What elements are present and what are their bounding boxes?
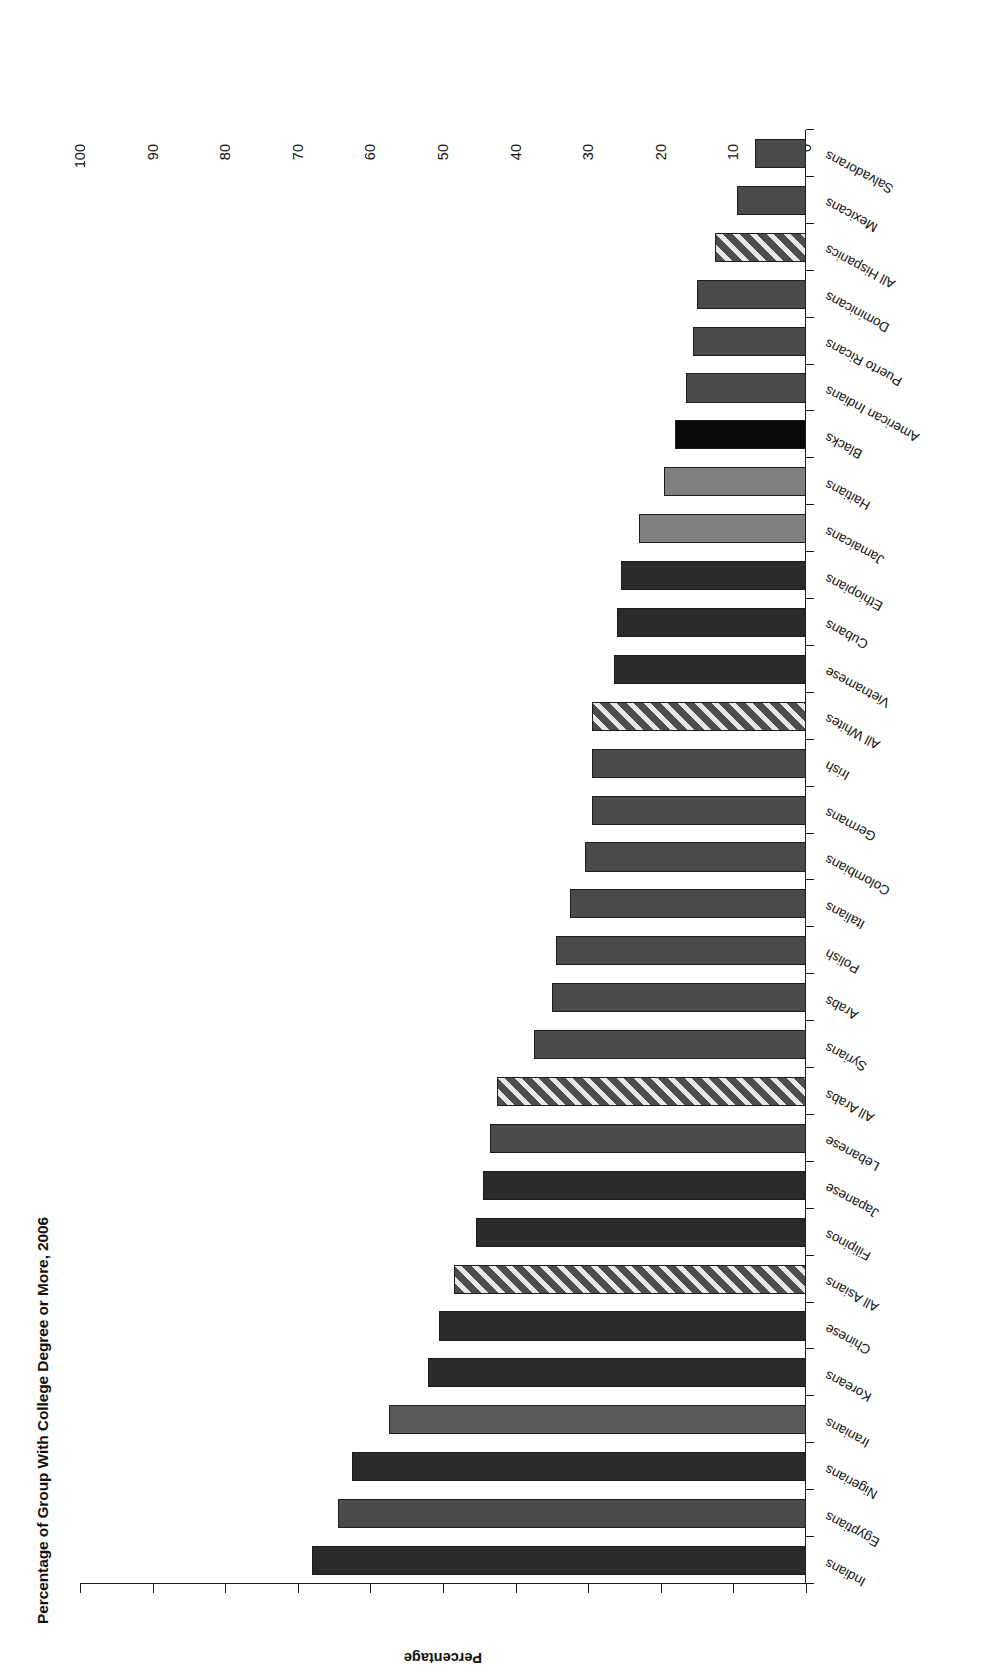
bar-item[interactable] xyxy=(80,936,806,965)
y-tick xyxy=(806,1584,807,1593)
bar-item[interactable] xyxy=(80,373,806,402)
bar xyxy=(686,373,806,402)
bar xyxy=(675,420,806,449)
x-tick-label: Haitians xyxy=(822,477,872,513)
y-tick xyxy=(225,1584,226,1593)
x-tick-label: Polish xyxy=(822,946,862,977)
x-tick xyxy=(806,1583,814,1584)
chart-title: Percentage of Group With College Degree … xyxy=(34,1217,52,1624)
bar-item[interactable] xyxy=(80,420,806,449)
bar-item[interactable] xyxy=(80,327,806,356)
bar-item[interactable] xyxy=(80,889,806,918)
y-tick xyxy=(443,1584,444,1593)
bar xyxy=(490,1124,806,1153)
bar-item[interactable] xyxy=(80,796,806,825)
bar-item[interactable] xyxy=(80,1030,806,1059)
bar-item[interactable] xyxy=(80,1077,806,1106)
y-tick xyxy=(153,1584,154,1593)
bar xyxy=(476,1218,806,1247)
bar xyxy=(592,749,806,778)
bar xyxy=(312,1546,806,1575)
x-tick-label: Puerto Ricans xyxy=(822,336,904,389)
bar xyxy=(534,1030,806,1059)
x-tick-label: Koreans xyxy=(822,1368,873,1405)
x-tick-label: Salvadorans xyxy=(822,148,895,196)
y-tick xyxy=(661,1584,662,1593)
x-tick-label: Ethiopians xyxy=(822,571,885,614)
bar xyxy=(715,233,806,262)
chart-canvas: Percentage of Group With College Degree … xyxy=(0,0,996,1676)
x-tick-label: Japanese xyxy=(822,1180,881,1221)
bar-item[interactable] xyxy=(80,1452,806,1481)
x-tick-label: Egyptians xyxy=(822,1509,881,1550)
bar xyxy=(428,1358,806,1387)
y-tick xyxy=(370,1584,371,1593)
bar-item[interactable] xyxy=(80,1124,806,1153)
bar-item[interactable] xyxy=(80,1218,806,1247)
bar-item[interactable] xyxy=(80,1405,806,1434)
bar-item[interactable] xyxy=(80,1546,806,1575)
bar-item[interactable] xyxy=(80,280,806,309)
y-tick xyxy=(588,1584,589,1593)
bar xyxy=(697,280,806,309)
x-tick-label: All Whites xyxy=(822,711,882,752)
bar-item[interactable] xyxy=(80,561,806,590)
bar xyxy=(483,1171,806,1200)
x-tick-label: Filipinos xyxy=(822,1227,873,1263)
x-tick-label: Cubans xyxy=(822,617,870,652)
bar-item[interactable] xyxy=(80,467,806,496)
bar-item[interactable] xyxy=(80,1265,806,1294)
y-tick xyxy=(733,1584,734,1593)
bar-item[interactable] xyxy=(80,608,806,637)
bar-item[interactable] xyxy=(80,1499,806,1528)
x-tick-label: Nigerians xyxy=(822,1462,879,1502)
bar-item[interactable] xyxy=(80,842,806,871)
x-tick-label: All Asians xyxy=(822,1274,881,1315)
bar-item[interactable] xyxy=(80,655,806,684)
bar-item[interactable] xyxy=(80,233,806,262)
bar xyxy=(497,1077,806,1106)
bar-item[interactable] xyxy=(80,1358,806,1387)
chart-page: Percentage of Group With College Degree … xyxy=(0,0,996,1676)
x-tick-label: All Arabs xyxy=(822,1087,876,1125)
bar-item[interactable] xyxy=(80,983,806,1012)
bar-item[interactable] xyxy=(80,186,806,215)
x-tick-label: Irish xyxy=(822,758,852,783)
y-tick xyxy=(298,1584,299,1593)
bar-item[interactable] xyxy=(80,514,806,543)
bar-item[interactable] xyxy=(80,749,806,778)
bar xyxy=(621,561,806,590)
bar-item[interactable] xyxy=(80,1312,806,1341)
x-tick-label: Indians xyxy=(822,1556,867,1590)
bar xyxy=(592,702,806,731)
x-tick-label: Italians xyxy=(822,899,867,932)
bar-item[interactable] xyxy=(80,1171,806,1200)
bar xyxy=(454,1265,806,1294)
bar xyxy=(338,1499,806,1528)
bar xyxy=(439,1312,806,1341)
x-tick-label: Arabs xyxy=(822,993,860,1023)
x-tick-label: Chinese xyxy=(822,1321,873,1357)
bar xyxy=(389,1405,806,1434)
bar xyxy=(552,983,806,1012)
bar xyxy=(352,1452,806,1481)
y-axis-title: Percentage xyxy=(404,1650,482,1666)
bar-item[interactable] xyxy=(80,139,806,168)
y-tick xyxy=(516,1584,517,1593)
plot-area: Percentage 0102030405060708090100 Indian… xyxy=(80,130,806,1584)
x-tick-label-wrap: Irish xyxy=(803,740,833,765)
bar xyxy=(585,842,806,871)
bar xyxy=(556,936,806,965)
x-tick-label: Mexicans xyxy=(822,195,879,235)
bar xyxy=(570,889,806,918)
x-tick-label: Iranians xyxy=(822,1415,871,1451)
x-tick-label: Syrians xyxy=(822,1040,869,1074)
y-tick xyxy=(80,1584,81,1593)
x-tick-label: Lebanese xyxy=(822,1133,881,1174)
x-tick-label: Jamaicans xyxy=(822,524,886,568)
x-tick-label: Germans xyxy=(822,805,878,844)
bar-item[interactable] xyxy=(80,702,806,731)
x-tick-label: All Hispanics xyxy=(822,242,897,292)
x-tick-label: Blacks xyxy=(822,430,864,462)
